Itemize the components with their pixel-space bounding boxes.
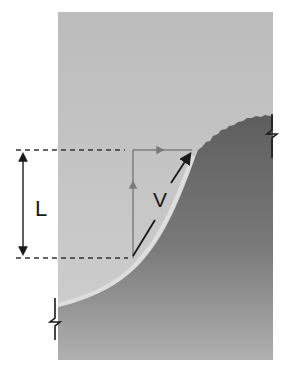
label-velocity: V (153, 188, 167, 211)
slope-velocity-diagram: L V (0, 0, 291, 384)
label-length: L (35, 196, 47, 221)
